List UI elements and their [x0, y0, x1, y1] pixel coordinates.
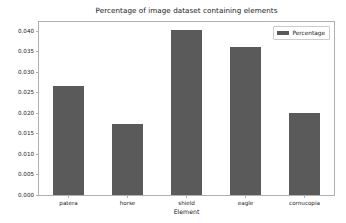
bar-eagle [230, 47, 261, 195]
y-tick-mark [36, 51, 39, 52]
plot-area [39, 22, 334, 195]
y-tick-label: 0.010 [18, 150, 34, 159]
y-tick-label: 0.035 [18, 47, 34, 56]
y-tick-label: 0.005 [18, 170, 34, 179]
y-tick-label: 0.040 [18, 27, 34, 36]
x-tick-mark [127, 195, 128, 198]
y-tick-mark [36, 174, 39, 175]
y-tick-mark [36, 113, 39, 114]
chart-title: Percentage of image dataset containing e… [38, 6, 335, 16]
y-tick-label: 0.030 [18, 68, 34, 77]
bar-shield [171, 30, 202, 195]
y-tick-mark [36, 72, 39, 73]
y-tick-label: 0.025 [18, 88, 34, 97]
bar-patera [53, 86, 84, 195]
legend-swatch-percentage [277, 31, 289, 35]
y-tick-mark [36, 154, 39, 155]
chart-axes: 0.0000.0050.0100.0150.0200.0250.0300.035… [38, 21, 335, 196]
chart-legend: Percentage [273, 26, 330, 40]
y-tick-label: 0.000 [18, 191, 34, 200]
y-tick-mark [36, 133, 39, 134]
x-tick-mark [304, 195, 305, 198]
x-axis-label: Element [38, 207, 335, 216]
y-tick-label: 0.015 [18, 129, 34, 138]
y-tick-mark [36, 92, 39, 93]
bar-horse [112, 124, 143, 195]
y-tick-mark [36, 195, 39, 196]
x-tick-mark [245, 195, 246, 198]
y-tick-label: 0.020 [18, 109, 34, 118]
chart-figure: Percentage of image dataset containing e… [0, 0, 346, 223]
legend-label-percentage: Percentage [292, 29, 325, 37]
bar-cornucopia [289, 113, 320, 195]
x-tick-mark [68, 195, 69, 198]
x-tick-mark [186, 195, 187, 198]
y-tick-mark [36, 31, 39, 32]
